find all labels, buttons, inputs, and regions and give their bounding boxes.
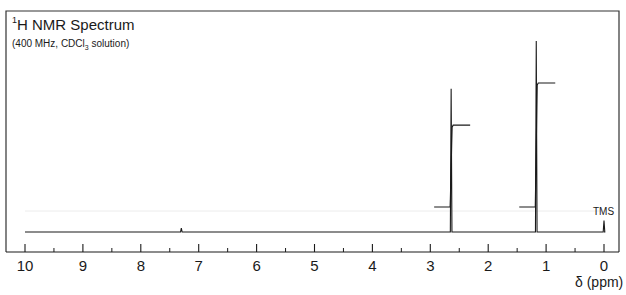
subtitle-suffix: solution): [89, 38, 130, 49]
tms-annotation: TMS: [593, 206, 614, 217]
x-tick-label: 1: [542, 257, 550, 274]
x-tick-label: 2: [484, 257, 492, 274]
x-tick-label: 4: [368, 257, 376, 274]
x-tick-label: 10: [17, 257, 34, 274]
x-tick-label: 8: [137, 257, 145, 274]
x-tick-label: 6: [252, 257, 260, 274]
x-tick-label: 9: [79, 257, 87, 274]
x-axis-ticks: [25, 244, 604, 252]
x-axis-label: δ (ppm): [575, 274, 623, 290]
nucleus-mass-number: 1: [12, 15, 17, 25]
title-text: NMR Spectrum: [28, 16, 135, 33]
chart-title: 1H NMR Spectrum: [12, 16, 135, 33]
chart-subtitle: (400 MHz, CDCl3 solution): [12, 38, 129, 51]
x-tick-label: 3: [426, 257, 434, 274]
nucleus-symbol: H: [17, 16, 28, 33]
x-tick-label: 0: [600, 257, 608, 274]
x-tick-label: 7: [195, 257, 203, 274]
x-tick-label: 5: [310, 257, 318, 274]
subtitle-prefix: (400 MHz, CDCl: [12, 38, 85, 49]
spectrum-trace: [25, 41, 605, 232]
